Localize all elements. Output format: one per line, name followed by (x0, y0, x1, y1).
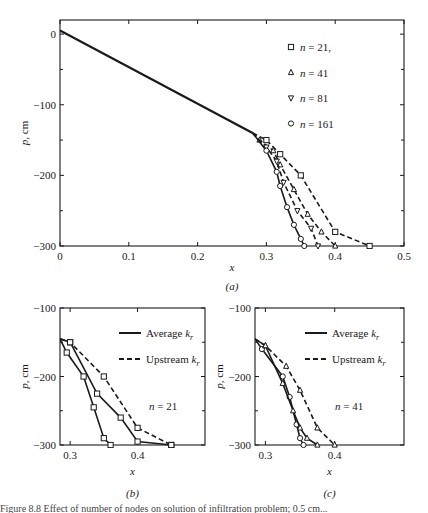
square-marker (91, 405, 96, 410)
circle-marker (274, 169, 279, 174)
square-marker (81, 374, 86, 379)
x-tick-label: 0.4 (328, 250, 342, 262)
y-tick-label: −200 (33, 169, 56, 181)
legend: Average krUpstream krn = 21 (119, 327, 200, 412)
square-marker (135, 439, 140, 444)
square-marker (169, 442, 174, 447)
legend-entry: n = 161 (300, 118, 334, 130)
legend-entry: Average kr (332, 327, 380, 342)
series-line (253, 133, 318, 246)
y-tick-label: 0 (51, 28, 57, 40)
triangle-up-marker (284, 363, 289, 368)
y-tick-label: −100 (228, 302, 251, 314)
plot-frame (60, 20, 404, 246)
square-marker (108, 442, 113, 447)
chart-panel-b: 0.30.4−100−200−300xp, cm(b)Average krUps… (18, 302, 205, 500)
square-marker (264, 137, 269, 142)
grid-annotation: n = 41 (335, 400, 363, 412)
y-axis-label: p, cm (213, 364, 225, 390)
triangle-down-marker (315, 244, 320, 249)
legend: n = 21,n = 41n = 81n = 161 (288, 41, 333, 130)
square-marker (367, 243, 372, 248)
panel-label: (a) (226, 280, 239, 293)
circle-marker (278, 183, 283, 188)
legend-entry: n = 81 (300, 92, 328, 104)
square-marker (135, 425, 140, 430)
plot-frame (255, 308, 404, 445)
y-tick-label: −300 (228, 439, 251, 451)
panel-label: (b) (126, 487, 139, 500)
square-marker (333, 229, 338, 234)
plot-area (255, 339, 337, 448)
x-axis-label: x (229, 261, 235, 273)
circle-marker (264, 148, 269, 153)
y-tick-label: −300 (33, 439, 56, 451)
series-line (255, 339, 317, 445)
legend-entry: Average kr (146, 327, 194, 342)
triangle-down-marker (274, 159, 279, 164)
triangle-up-marker (263, 343, 268, 348)
x-tick-label: 0.4 (131, 449, 145, 461)
y-tick-label: −100 (33, 302, 56, 314)
y-axis-label: p, cm (18, 364, 30, 390)
triangle-up-marker (319, 229, 324, 234)
circle-marker (291, 222, 296, 227)
square-marker (118, 415, 123, 420)
legend-entry: n = 21, (300, 41, 331, 53)
x-tick-label: 0.1 (122, 250, 136, 262)
y-tick-label: −200 (33, 371, 56, 383)
square-marker (68, 340, 73, 345)
legend-entry: n = 41 (300, 67, 328, 79)
square-marker (288, 44, 293, 49)
y-tick-label: −200 (228, 371, 251, 383)
series-line (255, 339, 304, 445)
legend: Average krUpstream krn = 41 (305, 327, 386, 412)
legend-entry: Upstream kr (332, 353, 386, 368)
square-marker (101, 436, 106, 441)
x-tick-label: 0.4 (328, 449, 342, 461)
square-marker (94, 391, 99, 396)
triangle-down-marker (309, 226, 314, 231)
triangle-down-marker (295, 209, 300, 214)
x-tick-label: 0.3 (259, 449, 273, 461)
circle-marker (301, 442, 306, 447)
x-tick-label: 0.5 (397, 250, 411, 262)
grid-annotation: n = 21 (149, 400, 177, 412)
square-marker (298, 173, 303, 178)
x-tick-label: 0.2 (191, 250, 205, 262)
x-axis-label: x (129, 465, 135, 477)
y-tick-label: −300 (33, 240, 56, 252)
triangle-up-marker (288, 69, 293, 74)
circle-marker (297, 436, 302, 441)
square-marker (101, 374, 106, 379)
square-marker (278, 152, 283, 157)
triangle-down-marker (288, 96, 293, 101)
triangle-up-marker (315, 442, 320, 447)
figure-canvas: 00.10.20.30.40.50−100−200−300xp, cm(a)n … (0, 0, 428, 513)
circle-marker (302, 243, 307, 248)
chart-panel-a: 00.10.20.30.40.50−100−200−300xp, cm(a)n … (18, 20, 411, 293)
y-tick-label: −100 (33, 99, 56, 111)
square-marker (64, 350, 69, 355)
x-tick-label: 0.3 (63, 449, 77, 461)
circle-marker (288, 121, 293, 126)
plot-area (60, 31, 372, 250)
x-tick-label: 0.3 (260, 250, 274, 262)
x-axis-label: x (326, 465, 332, 477)
series-line (253, 133, 305, 246)
y-axis-label: p, cm (18, 120, 30, 146)
x-tick-label: 0 (57, 250, 63, 262)
circle-marker (298, 236, 303, 241)
shared-curve (60, 31, 253, 133)
legend-entry: Upstream kr (146, 353, 200, 368)
circle-marker (284, 205, 289, 210)
figure-caption: Figure 8.8 Effect of number of nodes on … (0, 503, 428, 513)
triangle-up-marker (291, 408, 296, 413)
panel-label: (c) (323, 487, 336, 500)
chart-panel-c: 0.30.4−100−200−300xp, cm(c)Average krUps… (213, 302, 404, 500)
